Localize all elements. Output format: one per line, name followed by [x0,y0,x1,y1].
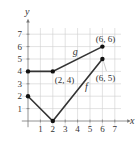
leader-line [103,61,106,71]
point-annotation: (6, 5) [96,73,116,83]
point-annotation: (6, 6) [96,34,116,44]
y-tick-label: 4 [18,66,23,76]
x-tick-label: 7 [113,124,118,134]
annotations: gf(2, 4)(6, 6)(6, 5) [55,34,115,92]
y-tick-label: 7 [18,29,23,39]
x-tick-label: 1 [38,124,43,134]
y-tick-label: 3 [18,79,23,89]
x-tick-label: 5 [88,124,93,134]
y-tick-label: 5 [18,54,23,64]
point-annotation: (2, 4) [55,75,75,85]
series-label-g: g [73,46,78,57]
x-axis-label: x [129,115,135,126]
y-tick-label: 1 [18,104,23,114]
y-axis-arrow-icon [26,19,30,23]
data-point-marker [51,119,55,123]
y-tick-label: 2 [18,91,23,101]
y-tick-label: 6 [18,42,23,52]
plot-area: 12345671234567 gf(2, 4)(6, 6)(6, 5) x y [0,0,140,142]
x-tick-label: 2 [51,124,56,134]
data-point-marker [100,57,104,61]
x-tick-label: 6 [100,124,105,134]
chart: 12345671234567 gf(2, 4)(6, 6)(6, 5) x y [0,0,140,142]
x-tick-label: 4 [75,124,80,134]
x-tick-label: 3 [63,124,68,134]
data-point-marker [26,69,30,73]
data-point-marker [100,44,104,48]
data-point-marker [51,69,55,73]
series-label-f: f [85,81,89,92]
data-point-marker [26,94,30,98]
y-axis-label: y [24,6,30,17]
